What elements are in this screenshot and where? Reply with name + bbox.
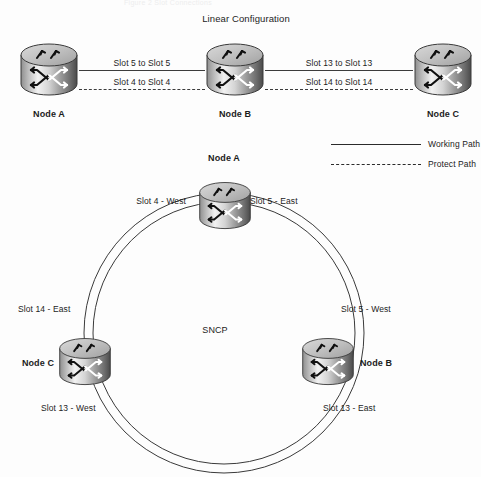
- ring-node-c-icon: [57, 333, 113, 391]
- protect-path-line-b-c: [265, 89, 413, 90]
- ring-node-a-label: Node A: [208, 154, 240, 163]
- link-label-protect-b-c: Slot 14 to Slot 14: [306, 78, 373, 87]
- dashed-line-icon: [331, 164, 421, 165]
- ring-port-label-slot5-east: Slot 5 - East: [250, 197, 298, 206]
- linear-node-c-label: Node C: [427, 110, 459, 119]
- ring-port-label-slot13-east: Slot 13 - East: [323, 404, 375, 413]
- cut-off-caption: Figure 2 Slot Connections: [124, 0, 212, 6]
- ring-center-label: SNCP: [202, 326, 227, 335]
- ring-port-label-slot5-west: Slot 5 - West: [341, 305, 391, 314]
- ring-port-label-slot13-west: Slot 13 - West: [41, 404, 96, 413]
- ring-port-label-slot14-east: Slot 14 - East: [18, 305, 70, 314]
- legend-label-protect-path: Protect Path: [428, 160, 476, 169]
- linear-configuration-title: Linear Configuration: [202, 14, 290, 24]
- solid-line-icon: [331, 144, 421, 145]
- ring-node-c-label: Node C: [22, 359, 54, 368]
- link-label-protect-a-b: Slot 4 to Slot 4: [114, 78, 171, 87]
- linear-node-a-icon: [18, 39, 80, 101]
- legend-label-working-path: Working Path: [428, 140, 480, 149]
- working-path-line-b-c: [265, 70, 413, 71]
- link-label-working-b-c: Slot 13 to Slot 13: [306, 59, 373, 68]
- ring-node-b-label: Node B: [360, 359, 392, 368]
- linear-node-c-icon: [412, 39, 474, 101]
- link-label-working-a-b: Slot 5 to Slot 5: [114, 59, 171, 68]
- diagram-canvas: Figure 2 Slot Connections Linear Configu…: [0, 0, 481, 477]
- linear-node-b-label: Node B: [219, 110, 251, 119]
- working-path-line-a-b: [79, 70, 205, 71]
- protect-path-line-a-b: [79, 89, 205, 90]
- linear-node-a-label: Node A: [33, 110, 65, 119]
- linear-node-b-icon: [204, 39, 266, 101]
- ring-port-label-slot4-west: Slot 4 - West: [136, 197, 186, 206]
- ring-node-a-icon: [197, 177, 253, 235]
- ring-node-b-icon: [300, 333, 356, 391]
